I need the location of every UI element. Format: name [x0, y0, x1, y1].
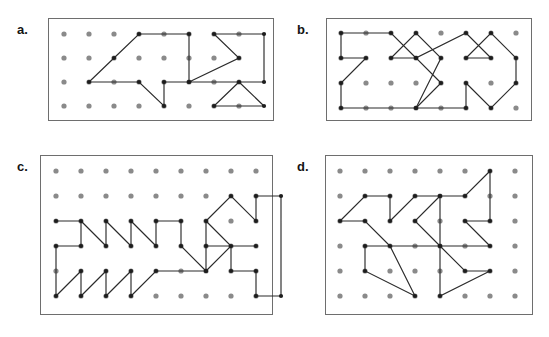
peg-dot [512, 293, 517, 298]
polygon-d2-vertex [488, 169, 492, 173]
peg-dot [337, 293, 342, 298]
panel-d-canvas [326, 156, 534, 316]
peg-dot [462, 293, 467, 298]
geoboard-figure: a.b.c.d. [0, 0, 549, 337]
peg-dot [487, 293, 492, 298]
polygon-d2-vertex [438, 194, 442, 198]
panel-d-label: d. [297, 160, 309, 173]
polygon-d2-vertex [488, 219, 492, 223]
peg-dot [337, 268, 342, 273]
polygon-d1-vertex [363, 194, 367, 198]
polygon-d1-vertex [363, 219, 367, 223]
polygon-d1-vertex [388, 244, 392, 248]
polygon-d1-vertex [413, 194, 417, 198]
peg-dot [387, 293, 392, 298]
polygon-d2-vertex [463, 269, 467, 273]
polygon-d2-vertex [438, 244, 442, 248]
peg-dot [362, 293, 367, 298]
peg-dot [512, 218, 517, 223]
polygon-d1-vertex [338, 219, 342, 223]
polygon-d1-vertex [388, 219, 392, 223]
polygon-d2-vertex [463, 219, 467, 223]
polygon-d2-vertex [488, 244, 492, 248]
polygon-d1-vertex [363, 244, 367, 248]
polygon-d1-vertex [388, 194, 392, 198]
panel-d-board [325, 155, 533, 315]
peg-dot [512, 243, 517, 248]
peg-dot [337, 168, 342, 173]
polygon-d2-vertex [463, 194, 467, 198]
panel-d: d. [0, 0, 549, 337]
polygon-d2-vertex [438, 294, 442, 298]
polygon-d2-outline [440, 171, 490, 296]
polygon-d2-vertex [488, 269, 492, 273]
polygon-d1 [338, 194, 442, 298]
peg-dot [412, 168, 417, 173]
peg-dot [337, 193, 342, 198]
peg-dot [437, 168, 442, 173]
polygon-d1-vertex [413, 219, 417, 223]
polygon-d1-vertex [363, 269, 367, 273]
peg-dot [387, 268, 392, 273]
polygon-d2 [438, 169, 492, 298]
polygon-d1-vertex [413, 294, 417, 298]
peg-dot [337, 243, 342, 248]
peg-dot [362, 168, 367, 173]
peg-dot [512, 168, 517, 173]
peg-dot [462, 168, 467, 173]
peg-dot [387, 168, 392, 173]
peg-dot [512, 268, 517, 273]
peg-dot [512, 193, 517, 198]
peg-dot [412, 268, 417, 273]
